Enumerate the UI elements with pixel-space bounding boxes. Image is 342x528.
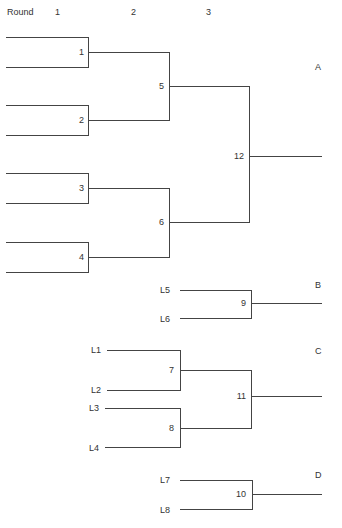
match-3-number: 3 (70, 183, 84, 193)
bracket-c-label: C (315, 346, 322, 356)
match-7-lines (107, 351, 252, 391)
match-9-number: 9 (232, 298, 246, 308)
entrant-l6: L6 (160, 314, 170, 324)
bracket-b-label: B (315, 280, 321, 290)
bracket-a-label: A (315, 62, 321, 72)
entrant-l5: L5 (160, 285, 170, 295)
match-5-lines (170, 53, 250, 121)
match-4-lines (6, 243, 170, 273)
match-2-number: 2 (70, 115, 84, 125)
match-12-number: 12 (228, 151, 244, 161)
entrant-l1: L1 (91, 345, 101, 355)
bracket-d-label: D (315, 470, 322, 480)
match-1-number: 1 (70, 47, 84, 57)
entrant-l8: L8 (160, 505, 170, 515)
match-1-lines (6, 38, 170, 68)
match-9-lines (180, 291, 322, 319)
match-12-lines (250, 87, 323, 223)
match-8-lines (105, 409, 252, 448)
entrant-l2: L2 (91, 385, 101, 395)
match-6-lines (170, 189, 250, 258)
match-10-number: 10 (230, 489, 246, 499)
match-4-number: 4 (70, 252, 84, 262)
entrant-l3: L3 (89, 403, 99, 413)
match-11-lines (252, 371, 323, 429)
match-8-number: 8 (160, 423, 174, 433)
match-7-number: 7 (160, 365, 174, 375)
entrant-l4: L4 (89, 443, 99, 453)
match-2-lines (6, 106, 170, 136)
match-11-number: 11 (230, 391, 246, 401)
match-3-lines (6, 174, 170, 204)
bracket-lines (0, 0, 342, 528)
entrant-l7: L7 (160, 475, 170, 485)
match-5-number: 5 (150, 81, 164, 91)
match-6-number: 6 (150, 217, 164, 227)
match-10-lines (180, 481, 322, 510)
